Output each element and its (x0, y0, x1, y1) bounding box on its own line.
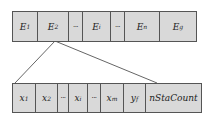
bottom-cell-2: ··· (58, 84, 69, 112)
top-cell-label: E (20, 22, 27, 32)
top-cell-2: ··· (69, 12, 83, 41)
bottom-cell-6: yf (124, 84, 146, 112)
top-cell-subscript: 2 (54, 23, 58, 30)
top-cell-subscript: n (143, 23, 147, 30)
bottom-cell-label: ··· (60, 94, 65, 102)
top-cell-label: ··· (115, 23, 120, 31)
bottom-cell-7: nStaCount (146, 84, 201, 112)
bottom-cell-1: x2 (36, 84, 58, 112)
bottom-cell-subscript: f (136, 95, 138, 102)
top-cell-6: Eg (160, 12, 196, 41)
top-cell-3: Ei (83, 12, 111, 41)
top-cell-label: E (92, 22, 99, 32)
bottom-cell-label: ··· (91, 94, 96, 102)
expanded-element-row: x1x2···xi···xmyfnStaCount (12, 83, 202, 113)
top-cell-0: E1 (13, 12, 38, 41)
connector-line-left (15, 41, 55, 83)
top-cell-4: ··· (111, 12, 125, 41)
top-cell-label: E (173, 22, 180, 32)
bottom-cell-subscript: i (80, 95, 82, 102)
connector-line-right (55, 41, 157, 83)
top-cell-label: E (137, 22, 144, 32)
bottom-cell-subscript: m (112, 95, 118, 102)
top-cell-label: ··· (73, 23, 78, 31)
bottom-cell-subscript: 2 (47, 95, 51, 102)
bottom-cell-4: ··· (88, 84, 101, 112)
top-array-row: E1E2···Ei···EnEg (12, 11, 197, 42)
top-cell-subscript: g (179, 23, 183, 30)
bottom-cell-subscript: 1 (25, 95, 29, 102)
bottom-cell-5: xm (101, 84, 124, 112)
top-cell-5: En (125, 12, 160, 41)
top-cell-subscript: i (99, 23, 101, 30)
top-cell-1: E2 (38, 12, 69, 41)
bottom-cell-3: xi (69, 84, 88, 112)
bottom-cell-label: nStaCount (149, 93, 197, 103)
bottom-cell-0: x1 (13, 84, 36, 112)
top-cell-subscript: 1 (26, 23, 30, 30)
